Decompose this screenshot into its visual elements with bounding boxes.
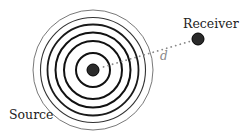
diagram-canvas: Receiver Source d <box>0 0 242 138</box>
source-dot <box>87 64 99 76</box>
distance-label: d <box>160 49 168 63</box>
source-receiver-diagram: Receiver Source d <box>0 0 242 138</box>
source-label: Source <box>9 107 54 122</box>
receiver-dot <box>192 33 204 45</box>
receiver-label: Receiver <box>183 16 239 31</box>
